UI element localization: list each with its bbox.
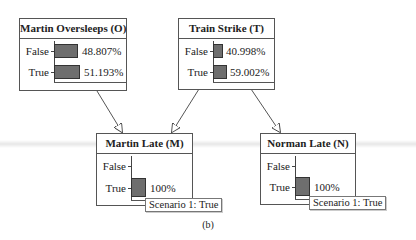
state-row-true[interactable]: True 51.193% (20, 64, 126, 80)
probability-bar (213, 65, 227, 79)
probability-value: 59.002% (230, 64, 269, 80)
edge-T-to-M (172, 89, 199, 132)
probability-value: 100% (314, 179, 340, 195)
node-body: False 40.998% True 59.002% (179, 39, 274, 90)
state-row-false[interactable]: False (97, 158, 192, 174)
probability-value: 48.807% (82, 43, 121, 59)
state-row-false[interactable]: False (261, 158, 355, 174)
probability-bar (54, 44, 78, 58)
probability-bar (213, 44, 223, 58)
node-title: Martin Late (M) (97, 134, 192, 154)
state-label: True (261, 179, 290, 195)
state-label: False (97, 158, 126, 174)
probability-bar (131, 178, 146, 197)
tick-mark (128, 166, 131, 167)
node-norman-late[interactable]: Norman Late (N) False True 100% (260, 133, 356, 205)
state-label: True (97, 180, 126, 196)
node-martin-late[interactable]: Martin Late (M) False True 100% (96, 133, 193, 206)
state-row-false[interactable]: False 40.998% (179, 43, 274, 59)
probability-bar (54, 65, 80, 79)
state-label: True (179, 64, 208, 80)
edge-O-to-M (97, 91, 122, 132)
state-row-true[interactable]: True 100% (97, 180, 192, 196)
state-row-false[interactable]: False 48.807% (20, 43, 126, 59)
edge-T-to-N (251, 89, 280, 132)
node-martin-oversleeps[interactable]: Martin Oversleeps (O) False 48.807% True… (19, 18, 127, 91)
probability-bar (295, 177, 310, 196)
state-label: True (20, 64, 49, 80)
state-label: False (179, 43, 208, 59)
divider (54, 82, 126, 83)
scenario-label-norman-late: Scenario 1: True (309, 196, 386, 210)
probability-value: 100% (150, 180, 176, 196)
node-title: Train Strike (T) (179, 19, 274, 39)
state-label: False (20, 43, 49, 59)
divider (213, 82, 274, 83)
node-title: Martin Oversleeps (O) (20, 19, 126, 39)
figure-caption: (b) (0, 219, 416, 230)
state-row-true[interactable]: True 59.002% (179, 64, 274, 80)
tick-mark (292, 166, 295, 167)
scenario-label-martin-late: Scenario 1: True (145, 198, 222, 212)
state-row-true[interactable]: True 100% (261, 179, 355, 195)
probability-value: 51.193% (84, 64, 123, 80)
probability-value: 40.998% (226, 43, 265, 59)
node-title: Norman Late (N) (261, 134, 355, 154)
state-label: False (261, 158, 290, 174)
node-train-strike[interactable]: Train Strike (T) False 40.998% True 59.0… (178, 18, 275, 90)
node-body: False 48.807% True 51.193% (20, 39, 126, 91)
